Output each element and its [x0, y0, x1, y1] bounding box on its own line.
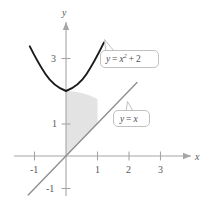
- y-tick-label-neg1: -1: [46, 184, 54, 194]
- plot-canvas: [0, 0, 212, 212]
- parabola-label-plus: +: [127, 54, 136, 64]
- x-tick-label-2: 2: [126, 165, 131, 175]
- x-tick-label-1: 1: [95, 165, 100, 175]
- curve-parabola: [30, 42, 104, 91]
- line-callout-label: y = x: [120, 114, 138, 124]
- line-label-base: x: [133, 114, 137, 124]
- shaded-area: [66, 91, 98, 156]
- y-axis-label: y: [62, 8, 66, 18]
- y-tick-label-3: 3: [51, 54, 56, 64]
- x-tick-label-3: 3: [158, 165, 163, 175]
- line-label-op: =: [124, 114, 133, 124]
- y-axis-arrowhead: [63, 22, 69, 30]
- x-axis-arrowhead: [183, 153, 191, 159]
- parabola-label-constant: 2: [136, 54, 141, 64]
- math-figure: -1 1 2 3 3 1 -1 x y y = x2 + 2 y = x: [0, 0, 212, 212]
- parabola-callout-label: y = x2 + 2: [106, 54, 141, 64]
- x-axis-label: x: [195, 152, 199, 162]
- x-tick-label-neg1: -1: [30, 165, 38, 175]
- parabola-label-op: =: [110, 54, 119, 64]
- y-tick-label-1: 1: [52, 119, 57, 129]
